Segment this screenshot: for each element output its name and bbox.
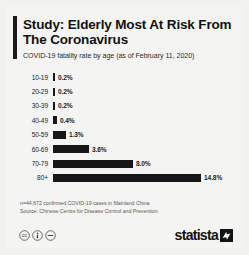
- bar-value-label: 3.6%: [89, 146, 107, 153]
- svg-text:cc: cc: [22, 232, 28, 238]
- bar-category-label: 50-59: [13, 131, 53, 138]
- cc-nd-icon[interactable]: [45, 230, 56, 241]
- bar-area: 1.3%: [53, 131, 235, 139]
- card-surface: Study: Elderly Most At Risk From The Cor…: [6, 6, 243, 249]
- bar-value-label: 14.8%: [201, 174, 222, 181]
- bar-area: 0.4%: [53, 116, 235, 124]
- source-note: Source: Chinese Centre for Disease Contr…: [20, 208, 235, 216]
- sample-size-note: n=44,672 confirmed COVID-19 cases in Mai…: [20, 200, 235, 208]
- bar-area: 8.0%: [53, 160, 235, 168]
- statista-arrow-mark-icon: [220, 229, 233, 242]
- bar-row: 10-190.2%: [13, 70, 235, 84]
- bar-category-label: 60-69: [13, 146, 53, 153]
- bar-value-label: 0.2%: [55, 74, 73, 81]
- bar-value-label: 8.0%: [133, 160, 151, 167]
- infographic-card: Study: Elderly Most At Risk From The Cor…: [0, 0, 249, 255]
- bar: [53, 174, 201, 182]
- bar-row: 60-693.6%: [13, 142, 235, 156]
- bar-row: 30-390.2%: [13, 99, 235, 113]
- bar-category-label: 10-19: [13, 74, 53, 81]
- bar-value-label: 0.4%: [57, 117, 75, 124]
- bar-category-label: 70-79: [13, 160, 53, 167]
- cc-icon[interactable]: cc: [19, 230, 30, 241]
- bar-value-label: 0.2%: [55, 88, 73, 95]
- footnotes: n=44,672 confirmed COVID-19 cases in Mai…: [20, 200, 235, 215]
- license-icons: cc: [19, 230, 56, 241]
- bar-area: 0.2%: [53, 102, 235, 110]
- footer: cc statista: [19, 228, 233, 242]
- statista-logo[interactable]: statista: [175, 228, 233, 242]
- header-text: Study: Elderly Most At Risk From The Cor…: [23, 16, 235, 61]
- bar-row: 20-290.2%: [13, 84, 235, 98]
- bar-chart: 10-190.2%20-290.2%30-390.2%40-490.4%50-5…: [13, 70, 235, 185]
- page-title: Study: Elderly Most At Risk From The Cor…: [23, 16, 235, 47]
- bar: [53, 131, 66, 139]
- bar-area: 14.8%: [53, 174, 235, 182]
- title-accent-bar: [13, 16, 17, 59]
- header: Study: Elderly Most At Risk From The Cor…: [13, 16, 235, 61]
- bar: [53, 145, 89, 153]
- bar-row: 50-591.3%: [13, 128, 235, 142]
- bar-category-label: 80+: [13, 174, 53, 181]
- bar-category-label: 30-39: [13, 102, 53, 109]
- page-subtitle: COVID-19 fatality rate by age (as of Feb…: [23, 47, 235, 61]
- bar-area: 0.2%: [53, 73, 235, 81]
- bar-row: 80+14.8%: [13, 171, 235, 185]
- bar-category-label: 40-49: [13, 117, 53, 124]
- statista-wordmark: statista: [175, 228, 218, 242]
- bar-value-label: 1.3%: [66, 131, 84, 138]
- bar-area: 3.6%: [53, 145, 235, 153]
- bar-row: 70-798.0%: [13, 156, 235, 170]
- bar-value-label: 0.2%: [55, 102, 73, 109]
- bar-row: 40-490.4%: [13, 113, 235, 127]
- bar-category-label: 20-29: [13, 88, 53, 95]
- bar: [53, 160, 133, 168]
- cc-by-icon[interactable]: [32, 230, 43, 241]
- bar-area: 0.2%: [53, 88, 235, 96]
